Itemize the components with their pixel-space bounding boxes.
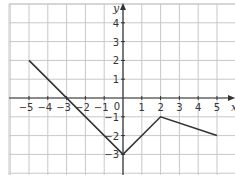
y-axis-label: y <box>112 2 120 15</box>
y-tick-label: 2 <box>113 55 119 66</box>
x-tick-label: 5 <box>214 102 220 113</box>
y-tick-label: 1 <box>113 74 119 85</box>
coordinate-plane: −5−4−3−2−112345−3−2−112340 y x <box>0 0 235 175</box>
gridlines <box>9 4 235 175</box>
y-tick-label: −1 <box>104 112 119 123</box>
axes <box>9 3 235 175</box>
y-tick-label: 3 <box>113 37 119 48</box>
x-tick-label: −4 <box>37 102 52 113</box>
x-axis-label: x <box>231 101 235 114</box>
y-tick-label: −3 <box>104 149 119 160</box>
x-tick-label: 2 <box>157 102 163 113</box>
tick-labels: −5−4−3−2−112345−3−2−112340 <box>19 18 221 161</box>
y-tick-label: 4 <box>113 18 119 29</box>
x-tick-label: −2 <box>75 102 90 113</box>
x-tick-label: 1 <box>139 102 145 113</box>
x-tick-label: 3 <box>176 102 182 113</box>
origin-label: 0 <box>114 101 120 112</box>
x-tick-label: −3 <box>56 102 71 113</box>
y-tick-label: −2 <box>104 131 119 142</box>
x-tick-label: −5 <box>19 102 34 113</box>
x-tick-label: 4 <box>195 102 201 113</box>
